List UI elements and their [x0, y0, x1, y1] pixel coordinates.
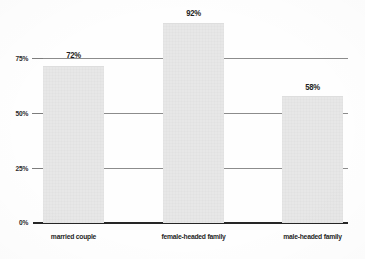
tick-dash-25: [32, 168, 43, 169]
bar-value-female-headed-family: 92%: [167, 8, 219, 18]
y-tick-label-0: 0%: [5, 218, 28, 227]
category-label-married-couple: married couple: [33, 232, 115, 241]
bar-male-headed-family[interactable]: [282, 96, 343, 223]
y-tick-label-50: 50%: [5, 109, 28, 118]
bar-value-male-headed-family: 58%: [286, 82, 338, 92]
tick-dash-50: [32, 113, 43, 114]
y-tick-label-25: 25%: [5, 164, 28, 173]
bar-chart: 75% 50% 25% 0% 72% married couple 92% fe…: [0, 0, 365, 259]
y-tick-label-75: 75%: [5, 54, 28, 63]
bar-value-married-couple: 72%: [47, 50, 99, 60]
plot-area: 75% 50% 25% 0% 72% married couple 92% fe…: [0, 0, 365, 259]
tick-dash-75: [32, 58, 43, 59]
category-label-male-headed-family: male-headed family: [267, 232, 358, 241]
category-label-female-headed-family: female-headed family: [146, 232, 241, 241]
bar-female-headed-family[interactable]: [163, 23, 224, 223]
bar-married-couple[interactable]: [43, 66, 104, 223]
